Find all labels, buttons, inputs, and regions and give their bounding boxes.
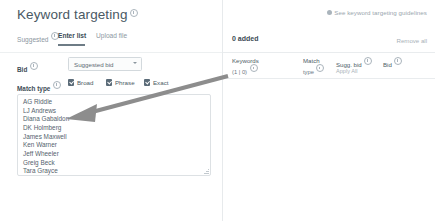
- keyword-entry-panel: Suggested Enter list Upload file Bid Sug…: [0, 30, 222, 221]
- added-count-label: 0 added: [232, 35, 258, 42]
- keywords-count-value: (1 | 0): [232, 69, 247, 75]
- list-item: LJ Andrews: [23, 107, 206, 116]
- column-header-keywords-count: (1 | 0): [232, 64, 259, 76]
- match-type-label-text: Match type: [17, 85, 50, 92]
- info-icon[interactable]: [53, 81, 61, 89]
- column-header-match-type: Match type: [303, 57, 324, 77]
- column-header-bid-label: Bid: [383, 61, 392, 68]
- tab-upload-file-label: Upload file: [96, 32, 127, 39]
- added-keywords-table-header: Keywords (1 | 0) Match type Sugg. bid Ap…: [223, 53, 435, 78]
- match-type-line2-text: type: [303, 69, 314, 75]
- info-icon[interactable]: [130, 9, 138, 17]
- tab-suggested[interactable]: Suggested: [17, 32, 59, 48]
- remove-all-link[interactable]: Remove all: [397, 37, 427, 44]
- tab-bar: Suggested Enter list Upload file: [0, 32, 222, 50]
- checkbox-phrase-label: Phrase: [115, 79, 135, 86]
- guidelines-link-label: See keyword targeting guidelines: [334, 9, 427, 16]
- info-icon[interactable]: [30, 62, 38, 70]
- chevron-down-icon: [133, 62, 137, 64]
- added-keywords-panel: 0 added Remove all Keywords (1 | 0) Matc…: [223, 30, 435, 221]
- bid-select-value: Suggested bid: [74, 61, 114, 68]
- list-item: James Maxwell: [23, 133, 206, 142]
- textarea-resize-handle[interactable]: [204, 169, 209, 174]
- apply-all-link[interactable]: Apply All: [336, 68, 372, 75]
- active-tab-indicator: [58, 44, 85, 46]
- keyword-list: AG Riddle LJ Andrews Diana Gabaldon DK H…: [23, 98, 206, 176]
- column-header-bid: Bid: [383, 57, 402, 68]
- info-icon[interactable]: [394, 57, 402, 65]
- checkbox-broad-label: Broad: [77, 79, 94, 86]
- checkbox-exact[interactable]: Exact: [144, 79, 168, 86]
- tab-enter-list-label: Enter list: [58, 32, 86, 39]
- checkbox-checked-icon: [68, 79, 74, 85]
- info-icon[interactable]: [316, 64, 324, 72]
- page-header: Keyword targeting See keyword targeting …: [0, 0, 435, 30]
- tab-enter-list[interactable]: Enter list: [58, 32, 86, 44]
- bid-label-text: Bid: [17, 66, 27, 73]
- keyword-targeting-page: Keyword targeting See keyword targeting …: [0, 0, 435, 221]
- tab-bar-rule: [0, 52, 222, 53]
- column-header-match-type-line2: type: [303, 64, 324, 76]
- bid-label: Bid: [17, 62, 38, 73]
- info-icon[interactable]: [250, 64, 258, 72]
- column-header-sugg-bid: Sugg. bid Apply All: [336, 57, 372, 76]
- column-header-sugg-bid-label: Sugg. bid: [336, 61, 362, 68]
- bid-select[interactable]: Suggested bid: [68, 57, 142, 71]
- panel-rule-bottom: [223, 78, 435, 79]
- column-header-keywords: Keywords (1 | 0): [232, 57, 259, 77]
- list-item: Jeff Wheeler: [23, 150, 206, 159]
- list-item: DK Holmberg: [23, 124, 206, 133]
- list-item: Diana Gabaldon: [23, 115, 206, 124]
- list-item: Greig Beck: [23, 159, 206, 168]
- tab-suggested-label: Suggested: [17, 36, 49, 43]
- checkbox-phrase[interactable]: Phrase: [106, 79, 135, 86]
- keyword-list-textarea[interactable]: AG Riddle LJ Andrews Diana Gabaldon DK H…: [17, 94, 211, 176]
- info-circle-icon: [327, 10, 332, 15]
- page-title-text: Keyword targeting: [17, 7, 128, 22]
- column-header-keywords-label: Keywords: [232, 57, 259, 64]
- keyword-targeting-guidelines-link[interactable]: See keyword targeting guidelines: [327, 9, 427, 16]
- checkbox-broad[interactable]: Broad: [68, 79, 94, 86]
- match-type-label: Match type: [17, 81, 61, 92]
- list-item: Ken Warner: [23, 141, 206, 150]
- list-item: AG Riddle: [23, 98, 206, 107]
- checkbox-exact-label: Exact: [153, 79, 168, 86]
- tab-upload-file[interactable]: Upload file: [96, 32, 127, 44]
- info-icon[interactable]: [364, 57, 372, 65]
- page-title: Keyword targeting: [17, 7, 138, 22]
- column-header-match-type-line1: Match: [303, 57, 320, 64]
- checkbox-checked-icon: [144, 79, 150, 85]
- checkbox-checked-icon: [106, 79, 112, 85]
- list-item: Tara Grayce: [23, 167, 206, 176]
